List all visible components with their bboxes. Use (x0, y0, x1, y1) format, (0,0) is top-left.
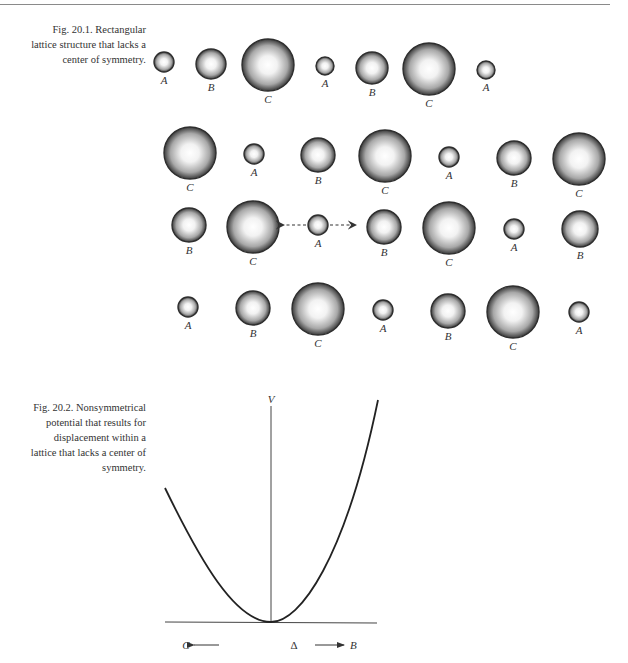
b-direction-label: B (350, 639, 357, 651)
potential-graph: V C Δ B (0, 0, 628, 663)
delta-label: Δ (290, 639, 297, 651)
v-axis-label: V (268, 393, 276, 405)
c-direction-label: C (182, 639, 190, 651)
